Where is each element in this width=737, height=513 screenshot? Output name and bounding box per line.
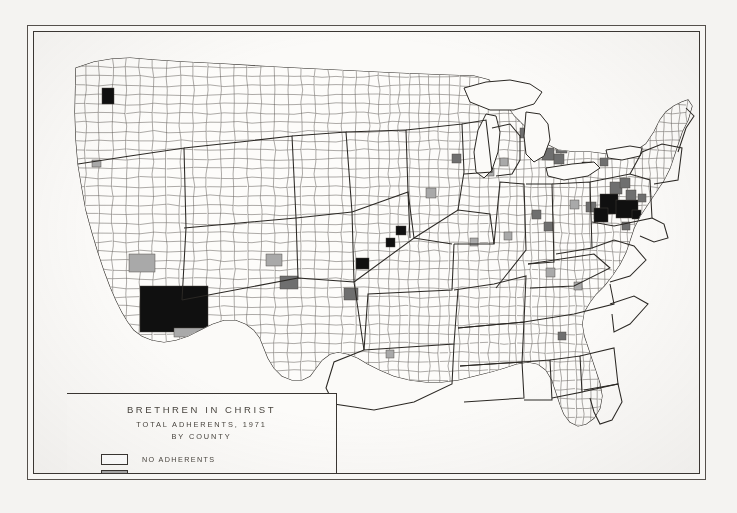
inner-frame-border: BRETHREN IN CHRIST TOTAL ADHERENTS, 1971… [33, 31, 700, 474]
shaded-county-class-2 [280, 276, 298, 289]
county-mesh-layer [70, 54, 698, 432]
shaded-county-class-1 [540, 372, 547, 379]
county-line-vertical [634, 54, 636, 426]
shaded-county-class-1 [266, 254, 282, 266]
state-line-md-de [640, 218, 668, 242]
shaded-county-class-3 [356, 258, 369, 269]
shaded-county-class-1 [386, 350, 394, 358]
shaded-county-class-2 [600, 158, 608, 166]
county-line-horizontal [70, 370, 686, 372]
shaded-county-class-2 [558, 332, 566, 340]
legend-label-class-1: 1 TO 28 [142, 471, 181, 475]
county-base-fill [72, 54, 698, 432]
shaded-county-class-1 [574, 282, 582, 290]
legend-swatch-no-adherents [101, 454, 128, 465]
county-line-horizontal [70, 379, 686, 381]
shaded-county-class-1 [504, 232, 512, 240]
shaded-county-class-2 [532, 210, 541, 219]
legend-title-block: BRETHREN IN CHRIST TOTAL ADHERENTS, 1971… [67, 394, 336, 441]
shaded-county-class-2 [554, 154, 564, 164]
shaded-county-class-2 [620, 178, 630, 188]
county-line-vertical [71, 54, 73, 426]
shaded-county-class-3 [594, 208, 608, 222]
shaded-county-class-2 [544, 222, 553, 231]
map-subtitle: TOTAL ADHERENTS, 1971 [67, 420, 336, 429]
shaded-county-class-1 [129, 254, 155, 272]
state-line-sc-nc [610, 296, 648, 332]
shaded-county-class-3 [140, 286, 208, 332]
shaded-county-class-1 [500, 158, 508, 166]
shaded-county-class-2 [626, 190, 636, 200]
legend-item-class-1: 1 TO 28 [101, 468, 336, 474]
map-title: BRETHREN IN CHRIST [67, 404, 336, 415]
shaded-county-class-1 [604, 294, 612, 302]
map-subtitle-2: BY COUNTY [67, 432, 336, 441]
shaded-county-class-3 [396, 226, 406, 235]
county-line-vertical [693, 54, 695, 426]
legend-key-list: NO ADHERENTS 1 TO 28 29 TO 78 79 TO 1,96… [101, 452, 336, 474]
map-page: BRETHREN IN CHRIST TOTAL ADHERENTS, 1971… [0, 0, 737, 513]
shaded-county-class-2 [634, 228, 641, 235]
map-legend: BRETHREN IN CHRIST TOTAL ADHERENTS, 1971… [67, 393, 337, 474]
shaded-county-class-3 [386, 238, 395, 247]
county-line-vertical [656, 54, 658, 426]
county-line-vertical [663, 54, 665, 426]
county-line-horizontal [70, 57, 686, 59]
shaded-county-class-2 [452, 154, 461, 163]
shaded-county-class-1 [590, 324, 597, 331]
shaded-county-class-1 [174, 328, 208, 337]
legend-swatch-class-1 [101, 470, 128, 475]
shaded-county-class-1 [470, 238, 478, 246]
county-line-vertical [641, 54, 643, 426]
shaded-county-class-3 [102, 88, 114, 104]
shaded-county-class-1 [80, 294, 87, 301]
shaded-county-class-1 [426, 188, 436, 198]
shaded-county-class-1 [570, 200, 579, 209]
legend-label-no-adherents: NO ADHERENTS [142, 455, 216, 464]
shaded-county-class-2 [638, 194, 646, 202]
shaded-county-class-2 [556, 142, 567, 153]
shaded-county-class-1 [546, 268, 555, 277]
legend-item-no-adherents: NO ADHERENTS [101, 452, 336, 466]
